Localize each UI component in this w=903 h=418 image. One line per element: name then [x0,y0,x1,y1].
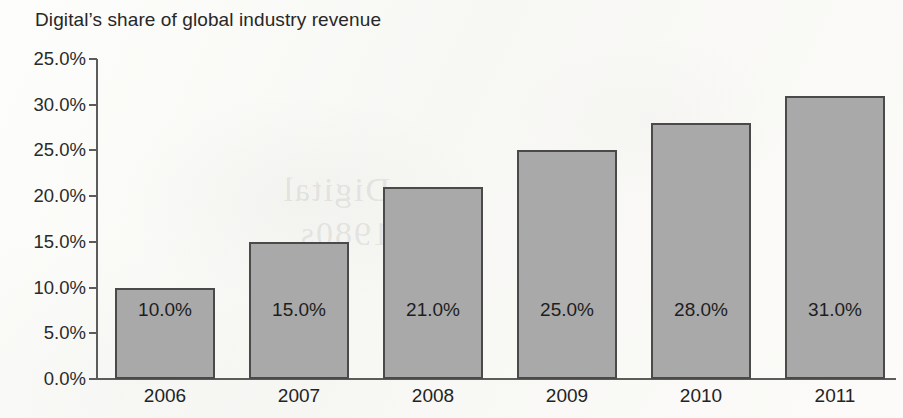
chart-page: Digital 1980s Digital’s share of global … [0,0,903,418]
x-axis-tick-label-2007: 2007 [249,385,349,407]
plot-area: 25.0%30.0%25.0%20.0%15.0%10.0%5.0%0.0% 1… [0,0,903,418]
y-axis-tick-mark [89,58,97,60]
y-axis-tick-mark [89,195,97,197]
bar-2008 [383,187,483,379]
y-axis-tick-label: 20.0% [34,185,86,207]
bar-value-label: 25.0% [517,299,617,321]
x-axis-tick-label-2011: 2011 [785,385,885,407]
y-axis-tick-label: 10.0% [34,277,86,299]
bar-2010 [651,123,751,379]
y-axis-tick-label: 25.0% [34,48,86,70]
x-axis-line [96,378,896,380]
bar-value-label: 28.0% [651,299,751,321]
bar-value-label: 15.0% [249,299,349,321]
y-axis-tick-mark [89,149,97,151]
y-axis-tick-mark [89,287,97,289]
y-axis-tick-label: 30.0% [34,94,86,116]
y-axis-tick-label: 15.0% [34,231,86,253]
bar-value-label: 31.0% [785,299,885,321]
y-axis-tick-label: 5.0% [44,322,86,344]
y-axis-tick-mark [89,378,97,380]
y-axis-tick-mark [89,104,97,106]
y-axis-tick-label: 25.0% [34,139,86,161]
x-axis-tick-label-2009: 2009 [517,385,617,407]
x-axis-tick-label-2008: 2008 [383,385,483,407]
bar-value-label: 21.0% [383,299,483,321]
y-axis-tick-mark [89,332,97,334]
bar-2009 [517,150,617,379]
bar-value-label: 10.0% [115,299,215,321]
x-axis-tick-label-2006: 2006 [115,385,215,407]
y-axis-tick-label: 0.0% [44,368,86,390]
y-axis-tick-mark [89,241,97,243]
x-axis-tick-label-2010: 2010 [651,385,751,407]
bar-2011 [785,96,885,379]
